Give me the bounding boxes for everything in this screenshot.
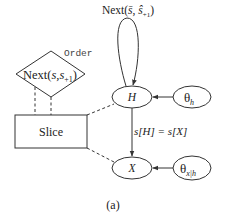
node-x: X: [112, 157, 152, 179]
order-factor: Next(s,s+1) Order: [16, 48, 93, 97]
node-h-label: H: [127, 91, 137, 103]
node-h: H: [112, 86, 152, 108]
self-loop-edge: [118, 18, 139, 86]
slice-h-dashed: [87, 104, 114, 115]
slice-label: Slice: [39, 125, 63, 139]
figure-caption: (a): [106, 198, 119, 212]
node-theta-h: θh: [173, 86, 211, 108]
slice-x-dashed: [87, 148, 114, 162]
node-theta-x: θx|h: [173, 156, 211, 180]
self-loop-label: Next(s̄, ŝ+1): [102, 4, 154, 19]
graphical-model-diagram: Next(s,s+1) Order Slice Next(s̄, ŝ+1) H …: [0, 0, 226, 223]
slice-box: Slice: [15, 115, 87, 148]
h-to-x-edge-label: s[H] = s[X]: [134, 125, 187, 137]
node-x-label: X: [127, 162, 136, 174]
order-annotation: Order: [64, 48, 93, 59]
